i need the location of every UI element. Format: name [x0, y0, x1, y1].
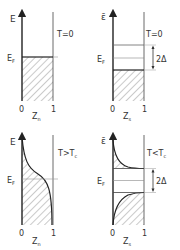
x-tick-0: 0: [19, 229, 24, 238]
fermi-label: EF: [7, 54, 15, 64]
x-tick-0: 0: [110, 105, 115, 114]
x-axis-label: Zs: [123, 112, 131, 122]
y-axis-label: E: [10, 14, 16, 24]
y-axis-label: ε̄: [101, 136, 106, 146]
condition-label: T>Tc: [57, 149, 77, 159]
fermi-label: EF: [97, 177, 105, 187]
x-axis-label: Zn: [32, 237, 41, 247]
panel-superconductor-t0: ε̄ EF 2Δ 0 1 Zs T=0: [97, 12, 167, 122]
condition-label: T=0: [145, 30, 163, 39]
x-tick-1: 1: [51, 105, 56, 114]
x-tick-0: 0: [19, 105, 24, 114]
panel-superconductor-below-tc: ε̄ EF 2Δ 0 1 Zs T<Tc: [97, 135, 167, 247]
occupied-states-area: [22, 57, 53, 101]
quasiparticle-area: [113, 140, 144, 169]
x-tick-1: 1: [51, 229, 56, 238]
fermi-label: EF: [97, 55, 105, 65]
panel-normal-t0: E EF 0 1 Zn T=0: [7, 12, 74, 122]
panel-normal-above-tc: E EF 0 1 Zn T>Tc: [7, 135, 77, 247]
x-tick-0: 0: [110, 229, 115, 238]
condition-label: T=0: [56, 30, 74, 39]
fermi-label: EF: [7, 176, 15, 186]
x-axis-label: Zn: [32, 112, 41, 122]
gap-label: 2Δ: [156, 55, 167, 64]
occupied-states-area: [113, 70, 144, 101]
condition-label: T<Tc: [146, 149, 166, 159]
occupied-states-area: [113, 193, 144, 226]
y-axis-label: E: [10, 137, 16, 147]
x-axis-label: Zs: [123, 237, 131, 247]
occupied-states-area: [22, 137, 52, 225]
gap-label: 2Δ: [156, 177, 167, 186]
y-axis-label: ε̄: [101, 12, 106, 22]
x-tick-1: 1: [142, 229, 147, 238]
occupation-diagram: E EF 0 1 Zn T=0 ε̄ EF 2Δ 0 1 Zs T=0 E EF…: [0, 0, 180, 250]
x-tick-1: 1: [142, 105, 147, 114]
